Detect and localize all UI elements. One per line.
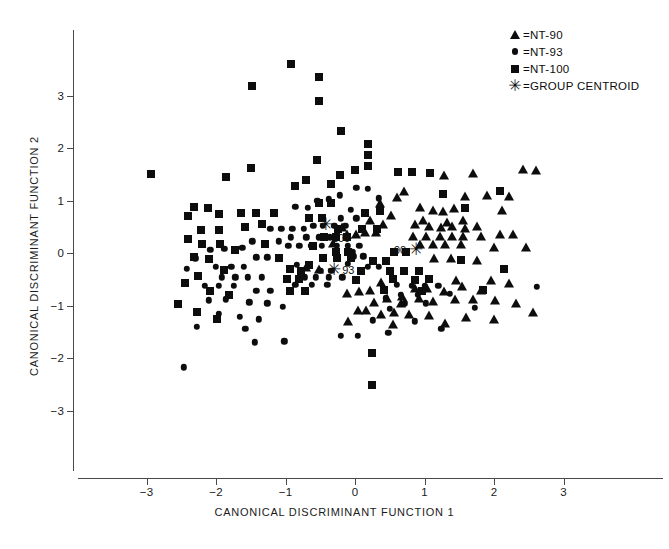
data-point-nt-93	[337, 192, 343, 198]
data-point-nt-90	[482, 191, 492, 200]
x-tick-label: 1	[421, 486, 428, 498]
x-tick	[286, 478, 287, 485]
data-point-nt-93	[249, 238, 255, 244]
data-point-nt-90	[343, 317, 353, 326]
y-tick	[67, 96, 74, 97]
data-point-nt-100	[287, 60, 295, 68]
group-centroid-marker: ✳	[319, 219, 333, 228]
x-tick	[216, 478, 217, 485]
data-point-nt-93	[289, 226, 295, 232]
y-tick	[67, 358, 74, 359]
data-point-nt-93	[310, 222, 316, 228]
data-point-nt-100	[190, 203, 198, 211]
y-tick-label: 2	[48, 142, 64, 154]
data-point-nt-90	[440, 239, 450, 248]
data-point-nt-100	[261, 240, 269, 248]
data-point-nt-90	[424, 221, 434, 230]
data-point-nt-100	[500, 265, 508, 273]
legend-item-nt-93: =NT-93	[507, 43, 639, 60]
data-point-nt-100	[197, 226, 205, 234]
circle-icon	[507, 48, 523, 54]
y-tick	[67, 411, 74, 412]
data-point-nt-93	[256, 316, 262, 322]
data-point-nt-100	[283, 275, 291, 283]
data-point-nt-100	[147, 170, 155, 178]
x-tick	[147, 478, 148, 485]
data-point-nt-100	[275, 254, 283, 262]
x-tick-label: 3	[560, 486, 567, 498]
x-axis-line	[78, 478, 663, 479]
data-point-nt-100	[270, 209, 278, 217]
legend-item-nt-90: =NT-90	[507, 26, 639, 43]
data-point-nt-93	[184, 266, 190, 272]
y-axis-title: CANONICAL DISCRIMINANT FUNCTION 2	[28, 36, 40, 476]
data-point-nt-90	[392, 193, 402, 202]
data-point-nt-90	[342, 288, 352, 297]
x-axis-title: CANONICAL DISCRIMINANT FUNCTION 1	[0, 506, 669, 518]
y-tick-label: 1	[48, 195, 64, 207]
data-point-nt-90	[365, 285, 375, 294]
x-tick-label: −2	[209, 486, 223, 498]
data-point-nt-100	[389, 275, 397, 283]
data-point-nt-100	[364, 162, 372, 170]
square-icon	[507, 65, 523, 73]
data-point-nt-93	[264, 254, 270, 260]
data-point-nt-100	[295, 275, 303, 283]
y-tick	[67, 253, 74, 254]
data-point-nt-90	[428, 297, 438, 306]
data-point-nt-100	[231, 246, 239, 254]
data-point-nt-93	[241, 263, 247, 269]
data-point-nt-100	[358, 225, 366, 233]
data-point-nt-90	[428, 239, 438, 248]
data-point-nt-90	[438, 207, 448, 216]
data-point-nt-90	[388, 320, 398, 329]
data-point-nt-93	[231, 282, 237, 288]
group-centroid-label: 100	[332, 232, 350, 244]
data-point-nt-93	[534, 283, 540, 289]
data-point-nt-90	[489, 242, 499, 251]
data-point-nt-93	[348, 207, 354, 213]
data-point-nt-93	[259, 274, 265, 280]
legend-item-group-centroid: ✳=GROUP CENTROID	[507, 77, 639, 94]
data-point-nt-93	[438, 325, 444, 331]
data-point-nt-93	[305, 205, 311, 211]
data-point-nt-90	[354, 286, 364, 295]
y-tick	[67, 148, 74, 149]
data-point-nt-90	[508, 230, 518, 239]
data-point-nt-93	[242, 325, 248, 331]
data-point-nt-93	[355, 333, 361, 339]
data-point-nt-100	[258, 220, 266, 228]
data-point-nt-100	[193, 308, 201, 316]
data-point-nt-90	[456, 240, 466, 249]
data-point-nt-90	[446, 254, 456, 263]
data-point-nt-100	[364, 140, 372, 148]
data-point-nt-100	[241, 223, 249, 231]
data-point-nt-93	[338, 215, 344, 221]
x-tick-label: −3	[140, 486, 154, 498]
y-tick-label: −3	[48, 405, 64, 417]
data-point-nt-93	[216, 282, 222, 288]
data-point-nt-100	[380, 286, 388, 294]
data-point-nt-93	[207, 247, 213, 253]
data-point-nt-100	[184, 235, 192, 243]
data-point-nt-93	[267, 288, 273, 294]
data-point-nt-90	[447, 221, 457, 230]
data-point-nt-100	[252, 209, 260, 217]
data-point-nt-100	[247, 164, 255, 172]
data-point-nt-100	[496, 187, 504, 195]
data-point-nt-93	[300, 226, 306, 232]
data-point-nt-90	[489, 315, 499, 324]
legend-item-nt-100: =NT-100	[507, 60, 639, 77]
data-point-nt-90	[528, 307, 538, 316]
data-point-nt-93	[402, 300, 408, 306]
data-point-nt-93	[292, 204, 298, 210]
data-point-nt-93	[353, 185, 359, 191]
data-point-nt-93	[412, 318, 418, 324]
data-point-nt-100	[457, 256, 465, 264]
data-point-nt-100	[305, 261, 313, 269]
data-point-nt-90	[353, 305, 363, 314]
data-point-nt-100	[315, 199, 323, 207]
data-point-nt-100	[386, 267, 394, 275]
star-icon: ✳	[507, 81, 523, 91]
data-point-nt-93	[228, 263, 234, 269]
